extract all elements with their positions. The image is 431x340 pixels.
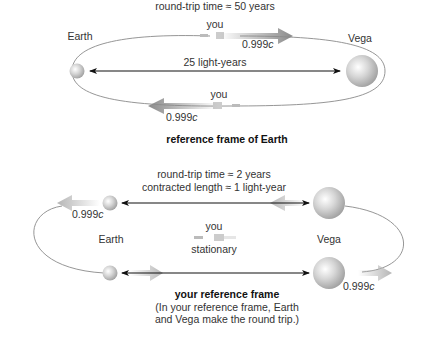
vega-sphere-bottom [313, 257, 345, 289]
you-label-return: you [211, 88, 228, 100]
earth-sphere-top [103, 196, 118, 211]
vega-sphere-top [313, 187, 345, 219]
round-trip-time-2: round-trip time ≈ 2 years [157, 168, 271, 180]
vega-speed: 0.999c [343, 280, 375, 292]
your-frame-note-line2: and Vega make the round trip.) [155, 313, 299, 325]
earth-label: Earth [67, 30, 92, 42]
your-frame-caption: your reference frame [175, 288, 280, 300]
vega-velocity-arrow-bottom [358, 265, 392, 281]
earth-frame-caption: reference frame of Earth [166, 133, 287, 145]
speed-outbound: 0.999c [242, 38, 274, 50]
round-trip-time-50: round-trip time ≈ 50 years [155, 0, 275, 12]
vega-label: Vega [348, 32, 372, 44]
earth-speed: 0.999c [72, 208, 104, 220]
you-label-stationary: you [206, 220, 223, 232]
speed-return: 0.999c [166, 111, 198, 123]
relativity-diagram: round-trip time ≈ 50 years Earth Vega 25… [0, 0, 431, 340]
distance-label: 25 light-years [183, 56, 246, 68]
you-label-outbound: you [207, 18, 224, 30]
earth-sphere-bottom [103, 266, 118, 281]
stationary-label: stationary [191, 243, 237, 255]
vega-trajectory-arc [345, 206, 404, 272]
contracted-length: contracted length ≈ 1 light-year [142, 181, 287, 193]
vega-sphere [346, 55, 378, 87]
earth-label-your-frame: Earth [98, 233, 123, 245]
earth-sphere [70, 64, 85, 79]
your-frame-panel: round-trip time ≈ 2 years contracted len… [34, 168, 404, 325]
your-frame-note-line1: (In your reference frame, Earth [155, 301, 299, 313]
vega-label-your-frame: Vega [317, 233, 341, 245]
spaceship-icon-stationary [194, 234, 236, 241]
earth-frame-panel: round-trip time ≈ 50 years Earth Vega 25… [67, 0, 385, 145]
